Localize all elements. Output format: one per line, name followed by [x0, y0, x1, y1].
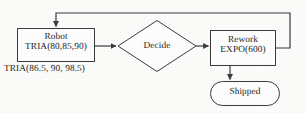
- node-robot-label: Robot TRIA(80,85,90): [17, 32, 95, 53]
- node-decide-line1: Decide: [122, 41, 192, 51]
- node-rework-line2: EXPO(600): [210, 45, 276, 55]
- robot-distribution-note: TRIA(86.5, 90, 98.5): [4, 64, 112, 74]
- node-robot-line1: Robot: [17, 32, 95, 42]
- node-decide-label: Decide: [122, 41, 192, 51]
- node-rework-line1: Rework: [210, 35, 276, 45]
- node-shipped-line1: Shipped: [210, 87, 280, 97]
- flowchart-canvas: Robot TRIA(80,85,90) Decide Rework EXPO(…: [0, 0, 305, 113]
- node-shipped-label: Shipped: [210, 87, 280, 97]
- node-rework-label: Rework EXPO(600): [210, 35, 276, 56]
- node-robot-line2: TRIA(80,85,90): [17, 42, 95, 52]
